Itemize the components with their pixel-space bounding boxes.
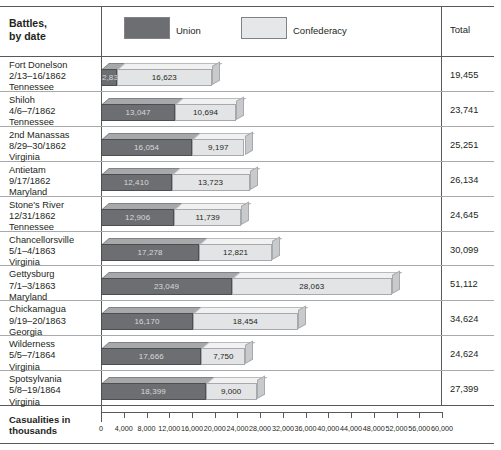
bar-side-face bbox=[212, 61, 220, 85]
bar-segment-union[interactable]: 18,399 bbox=[101, 383, 206, 400]
battle-name: 2nd Manassas bbox=[9, 130, 101, 141]
x-axis-tick bbox=[397, 412, 398, 418]
x-axis-tick-label: 36,000 bbox=[295, 424, 317, 433]
bar-segment-union[interactable]: 23,049 bbox=[101, 278, 232, 295]
x-axis-tick-label: 48,000 bbox=[363, 424, 385, 433]
battle-row-label: 2nd Manassas8/29–30/1862Virginia bbox=[9, 130, 101, 164]
bar-segment-confederacy[interactable]: 18,454 bbox=[193, 313, 298, 330]
x-axis-tick-label: 24,000 bbox=[226, 424, 248, 433]
battle-date: 9/17/1862 bbox=[9, 176, 101, 187]
bar-segment-confederacy[interactable]: 12,821 bbox=[199, 244, 272, 261]
battle-place: Virginia bbox=[9, 257, 101, 268]
bar-value-confederacy: 28,063 bbox=[233, 282, 391, 291]
battle-row-label: Wilderness5/5–7/1864Virginia bbox=[9, 339, 101, 373]
bar-segment-union[interactable]: 16,054 bbox=[101, 139, 192, 156]
bar-segment-union[interactable]: 12,906 bbox=[101, 209, 174, 226]
battle-total: 19,455 bbox=[450, 70, 478, 80]
legend-swatch-confederacy bbox=[241, 17, 287, 39]
x-axis-tick bbox=[351, 412, 352, 418]
battle-place: Georgia bbox=[9, 327, 101, 338]
x-axis-tick bbox=[101, 406, 102, 418]
bar-segment-confederacy[interactable]: 28,063 bbox=[232, 278, 392, 295]
stacked-bar[interactable]: 12,90611,739 bbox=[101, 209, 241, 226]
bar-side-face bbox=[272, 236, 280, 260]
bar-side-face bbox=[236, 96, 244, 120]
bar-side-face bbox=[250, 166, 258, 190]
stacked-bar[interactable]: 16,0549,197 bbox=[101, 139, 245, 156]
battle-name: Gettysburg bbox=[9, 269, 101, 280]
bar-value-confederacy: 16,623 bbox=[118, 73, 211, 82]
battle-date: 2/13–16/1862 bbox=[9, 71, 101, 82]
battle-date: 5/5–7/1864 bbox=[9, 350, 101, 361]
x-axis-tick-label: 28,000 bbox=[249, 424, 271, 433]
battle-row-label: Antietam9/17/1862Maryland bbox=[9, 165, 101, 199]
x-axis-tick bbox=[283, 412, 284, 418]
x-axis-tick bbox=[169, 412, 170, 418]
bar-segment-confederacy[interactable]: 9,197 bbox=[192, 139, 244, 156]
battle-total: 26,134 bbox=[450, 175, 478, 185]
stacked-bar[interactable]: 17,6667,750 bbox=[101, 348, 245, 365]
stacked-bar[interactable]: 12,41013,723 bbox=[101, 174, 250, 191]
battle-place: Maryland bbox=[9, 292, 101, 303]
total-column-header: Total bbox=[450, 24, 470, 35]
x-axis-tick-label: 40,000 bbox=[317, 424, 339, 433]
bar-segment-union[interactable]: 17,666 bbox=[101, 348, 201, 365]
battle-date: 4/6–7/1862 bbox=[9, 106, 101, 117]
stacked-bar[interactable]: 13,04710,694 bbox=[101, 104, 236, 121]
x-axis-tick-label: 52,000 bbox=[386, 424, 408, 433]
battle-row-label: Chancellorsville5/1–4/1863Virginia bbox=[9, 235, 101, 269]
battle-place: Tennessee bbox=[9, 117, 101, 128]
bar-segment-confederacy[interactable]: 16,623 bbox=[117, 69, 212, 86]
battle-place: Tennessee bbox=[9, 82, 101, 93]
stacked-bar[interactable]: 23,04928,063 bbox=[101, 278, 392, 295]
battle-date: 8/29–30/1862 bbox=[9, 141, 101, 152]
x-axis-tick-label: 12,000 bbox=[158, 424, 180, 433]
bar-value-confederacy: 9,000 bbox=[207, 387, 256, 396]
bar-segment-confederacy[interactable]: 10,694 bbox=[175, 104, 236, 121]
battle-total: 23,741 bbox=[450, 105, 478, 115]
bar-value-confederacy: 10,694 bbox=[176, 108, 235, 117]
x-axis-tick bbox=[419, 412, 420, 418]
bar-segment-union[interactable]: 17,278 bbox=[101, 244, 199, 261]
battle-name: Wilderness bbox=[9, 339, 101, 350]
bar-value-union: 16,170 bbox=[102, 317, 192, 326]
x-axis-tick-label: 4,000 bbox=[115, 424, 133, 433]
battle-place: Tennessee bbox=[9, 222, 101, 233]
bar-value-confederacy: 12,821 bbox=[200, 248, 271, 257]
battle-date: 5/1–4/1863 bbox=[9, 246, 101, 257]
x-axis-tick-label: 20,000 bbox=[204, 424, 226, 433]
battle-date: 9/19–20/1863 bbox=[9, 316, 101, 327]
stacked-bar[interactable]: 2,83216,623 bbox=[101, 69, 212, 86]
x-axis-tick bbox=[215, 412, 216, 418]
battle-name: Chickamagua bbox=[9, 304, 101, 315]
bar-segment-confederacy[interactable]: 9,000 bbox=[206, 383, 257, 400]
legend-label-confederacy: Confederacy bbox=[293, 25, 347, 36]
battle-place: Virginia bbox=[9, 362, 101, 373]
bar-segment-confederacy[interactable]: 11,739 bbox=[174, 209, 241, 226]
x-axis-tick-label: 44,000 bbox=[340, 424, 362, 433]
battle-name: Stone's River bbox=[9, 200, 101, 211]
battle-date: 5/8–19/1864 bbox=[9, 385, 101, 396]
stacked-bar[interactable]: 17,27812,821 bbox=[101, 244, 272, 261]
bar-value-union: 18,399 bbox=[102, 387, 205, 396]
legend-swatch-union bbox=[124, 17, 170, 39]
bar-segment-confederacy[interactable]: 13,723 bbox=[172, 174, 250, 191]
top-border bbox=[0, 6, 494, 7]
stacked-bar[interactable]: 18,3999,000 bbox=[101, 383, 257, 400]
stacked-bar[interactable]: 16,17018,454 bbox=[101, 313, 298, 330]
x-axis-line bbox=[101, 412, 442, 413]
bar-segment-union[interactable]: 13,047 bbox=[101, 104, 175, 121]
bar-segment-union[interactable]: 2,832 bbox=[101, 69, 117, 86]
battle-date: 7/1–3/1863 bbox=[9, 281, 101, 292]
bar-segment-confederacy[interactable]: 7,750 bbox=[201, 348, 245, 365]
x-axis-tick bbox=[260, 412, 261, 418]
x-axis-tick bbox=[147, 412, 148, 418]
bar-side-face bbox=[392, 271, 400, 295]
bar-segment-union[interactable]: 16,170 bbox=[101, 313, 193, 330]
x-axis-tick bbox=[306, 412, 307, 418]
x-axis-tick-label: 8,000 bbox=[138, 424, 156, 433]
x-axis-tick bbox=[328, 412, 329, 418]
bar-value-union: 17,666 bbox=[102, 352, 200, 361]
bar-segment-union[interactable]: 12,410 bbox=[101, 174, 172, 191]
battle-name: Fort Donelson bbox=[9, 60, 101, 71]
